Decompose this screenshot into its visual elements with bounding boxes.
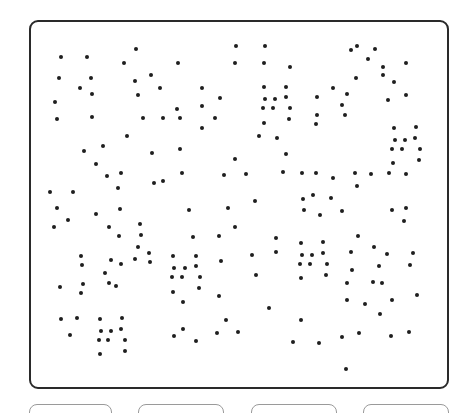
answer-button-3[interactable] bbox=[251, 404, 337, 413]
dot-count-puzzle bbox=[0, 0, 476, 413]
answer-button-1[interactable] bbox=[29, 404, 112, 413]
answer-button-2[interactable] bbox=[138, 404, 224, 413]
answer-options bbox=[0, 0, 476, 413]
answer-button-4[interactable] bbox=[363, 404, 449, 413]
